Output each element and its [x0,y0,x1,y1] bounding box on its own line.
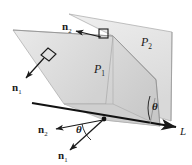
normal-2-top-subscript: 2 [68,27,71,34]
figure-canvas [0,0,192,165]
normal-1-left-subscript: 1 [18,88,21,95]
plane-1-subscript: 1 [101,69,105,78]
plane-2-subscript: 2 [148,42,152,51]
plane-2-label: P2 [141,36,152,51]
line-l-symbol: L [180,125,186,137]
normal-1-bottom-label: n1 [58,150,68,164]
normal-2-bottom-label: n2 [38,124,48,138]
theta-right-label: θ [152,101,158,112]
plane-intersection-figure: n2 n1 n2 n1 P2 P1 θ θ L [0,0,192,165]
plane-1-label: P1 [94,63,105,78]
theta-bottom-label: θ [76,124,82,135]
line-l-label: L [180,126,186,137]
normal-1-left-label: n1 [12,82,22,96]
normal-2-top-label: n2 [62,21,72,35]
normal-2-bottom-subscript: 2 [44,130,47,137]
normal-1-bottom-subscript: 1 [64,156,67,163]
